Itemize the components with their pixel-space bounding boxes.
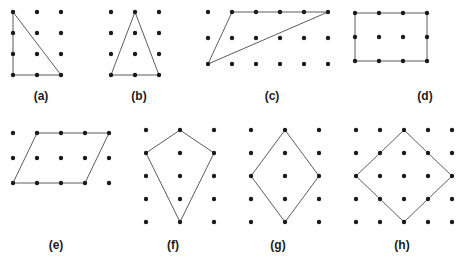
grid-dot xyxy=(450,128,454,132)
grid-dot xyxy=(450,220,454,224)
grid-dot xyxy=(212,174,216,178)
grid-dot xyxy=(11,52,15,56)
figure-h xyxy=(354,128,454,224)
grid-dot xyxy=(317,197,321,201)
grid-dot xyxy=(378,174,382,178)
grid-dot xyxy=(450,151,454,155)
figure-b xyxy=(109,10,161,77)
grid-dot xyxy=(178,174,182,178)
grid-dot xyxy=(450,197,454,201)
grid-dot xyxy=(107,181,111,185)
grid-dot xyxy=(254,62,258,66)
grid-dot xyxy=(425,11,429,15)
grid-dot xyxy=(133,73,137,77)
figure-label-e: (e) xyxy=(49,238,64,252)
grid-dot xyxy=(317,151,321,155)
grid-dot xyxy=(254,36,258,40)
grid-dot xyxy=(230,62,234,66)
grid-dot xyxy=(402,151,406,155)
figure-board: (a)(b)(c)(d)(e)(f)(g)(h) xyxy=(0,0,464,260)
grid-dot xyxy=(377,11,381,15)
grid-dot xyxy=(11,131,15,135)
grid-dot xyxy=(206,10,210,14)
grid-dot xyxy=(11,10,15,14)
grid-dot xyxy=(109,73,113,77)
grid-dot xyxy=(249,197,253,201)
grid-dot xyxy=(426,197,430,201)
grid-dot xyxy=(254,10,258,14)
figure-label-b: (b) xyxy=(131,89,146,103)
grid-dot xyxy=(378,197,382,201)
grid-dot xyxy=(426,174,430,178)
polygon-c xyxy=(208,12,328,64)
grid-dot xyxy=(11,181,15,185)
polygon-b xyxy=(111,12,159,75)
grid-dot xyxy=(230,36,234,40)
grid-dot xyxy=(157,52,161,56)
figure-g xyxy=(249,128,321,224)
grid-dot xyxy=(353,35,357,39)
grid-dot xyxy=(283,174,287,178)
grid-dot xyxy=(401,11,405,15)
grid-dot xyxy=(278,36,282,40)
grid-dot xyxy=(59,73,63,77)
grid-dot xyxy=(401,35,405,39)
figure-a xyxy=(11,10,63,77)
grid-dot xyxy=(109,31,113,35)
grid-dot xyxy=(249,128,253,132)
grid-dot xyxy=(249,220,253,224)
grid-dot xyxy=(354,128,358,132)
grid-dot xyxy=(83,156,87,160)
grid-dot xyxy=(353,11,357,15)
grid-dot xyxy=(212,220,216,224)
polygon-d xyxy=(355,13,427,61)
grid-dot xyxy=(212,197,216,201)
grid-dot xyxy=(11,31,15,35)
dot-grid-figures-canvas xyxy=(0,0,464,260)
figure-label-a: (a) xyxy=(34,89,49,103)
grid-dot xyxy=(144,197,148,201)
grid-dot xyxy=(283,220,287,224)
figure-label-h: (h) xyxy=(394,238,409,252)
grid-dot xyxy=(402,197,406,201)
grid-dot xyxy=(377,35,381,39)
grid-dot xyxy=(278,10,282,14)
grid-dot xyxy=(283,128,287,132)
grid-dot xyxy=(11,156,15,160)
grid-dot xyxy=(326,10,330,14)
grid-dot xyxy=(302,36,306,40)
grid-dot xyxy=(283,197,287,201)
grid-dot xyxy=(133,31,137,35)
grid-dot xyxy=(133,52,137,56)
grid-dot xyxy=(354,197,358,201)
grid-dot xyxy=(249,151,253,155)
grid-dot xyxy=(144,128,148,132)
grid-dot xyxy=(353,59,357,63)
grid-dot xyxy=(426,220,430,224)
grid-dot xyxy=(59,131,63,135)
grid-dot xyxy=(401,59,405,63)
grid-dot xyxy=(354,174,358,178)
figure-f xyxy=(144,128,216,224)
grid-dot xyxy=(157,10,161,14)
grid-dot xyxy=(157,73,161,77)
grid-dot xyxy=(249,174,253,178)
grid-dot xyxy=(107,131,111,135)
grid-dot xyxy=(302,62,306,66)
grid-dot xyxy=(283,151,287,155)
grid-dot xyxy=(35,73,39,77)
grid-dot xyxy=(326,36,330,40)
grid-dot xyxy=(425,59,429,63)
figure-e xyxy=(11,131,111,185)
grid-dot xyxy=(230,10,234,14)
grid-dot xyxy=(402,128,406,132)
figure-label-d: (d) xyxy=(417,89,432,103)
grid-dot xyxy=(144,151,148,155)
grid-dot xyxy=(354,151,358,155)
grid-dot xyxy=(133,10,137,14)
grid-dot xyxy=(206,62,210,66)
grid-dot xyxy=(450,174,454,178)
grid-dot xyxy=(107,156,111,160)
figure-c xyxy=(206,10,330,66)
grid-dot xyxy=(178,197,182,201)
